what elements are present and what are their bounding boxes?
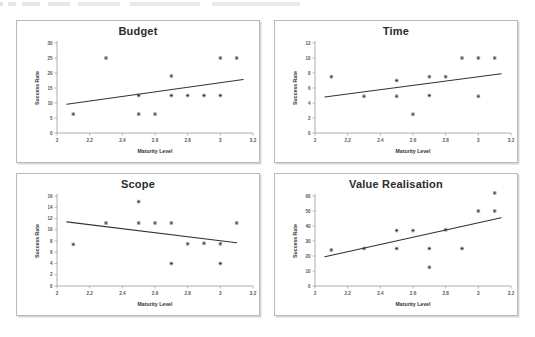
time-ytick-label: 6: [308, 86, 311, 91]
budget-ytick-label: 20: [47, 71, 53, 76]
scope-ytick-label: 4: [50, 261, 53, 266]
scope-ytick-label: 8: [50, 239, 53, 244]
scope-data-point: [186, 242, 190, 246]
scan-artifact-strip: [0, 2, 330, 6]
budget-data-point: [218, 56, 222, 60]
scope-xaxis-title: Maturity Level: [138, 301, 173, 307]
scope-data-point: [202, 241, 206, 245]
time-data-point: [493, 56, 497, 60]
budget-data-point: [186, 94, 190, 98]
time-ytick-label: 4: [308, 101, 311, 106]
time-data-point: [427, 94, 431, 98]
time-xtick-label: 2.6: [410, 138, 417, 143]
value-realisation-data-point: [395, 229, 399, 233]
time-data-point: [329, 75, 333, 79]
budget-data-point: [169, 94, 173, 98]
budget-data-point: [137, 112, 141, 116]
time-data-point: [395, 94, 399, 98]
time-xtick-label: 2.2: [344, 138, 351, 143]
value-realisation-ytick-label: 50: [305, 209, 311, 214]
value-realisation-data-point: [411, 229, 415, 233]
budget-data-point: [202, 94, 206, 98]
budget-ytick-label: 5: [50, 116, 53, 121]
value-realisation-data-point: [476, 209, 480, 213]
scope-xtick-label: 2.6: [152, 291, 159, 296]
scope-ytick-label: 12: [47, 216, 53, 221]
budget-axis-lines: [57, 41, 253, 133]
scope-ytick-label: 14: [47, 205, 53, 210]
time-data-point: [444, 75, 448, 79]
scope-ytick-label: 16: [47, 194, 53, 199]
scope-ytick-label: 2: [50, 272, 53, 277]
budget-xtick-label: 2.2: [86, 138, 93, 143]
scope-data-point: [169, 221, 173, 225]
scope-data-point: [235, 221, 239, 225]
scope-data-point: [153, 221, 157, 225]
chart-panel-value-realisation: Value Realisation 010203040506022.22.42.…: [274, 173, 518, 316]
budget-xtick-label: 2.6: [152, 138, 159, 143]
scope-xtick-label: 2: [56, 291, 59, 296]
time-ytick-label: 10: [305, 56, 311, 61]
time-ytick-label: 12: [305, 41, 311, 46]
budget-data-point: [137, 94, 141, 98]
time-data-point: [476, 94, 480, 98]
time-xtick-label: 3: [477, 138, 480, 143]
scope-xtick-label: 2.4: [119, 291, 126, 296]
scope-xtick-label: 2.2: [86, 291, 93, 296]
budget-yaxis-title: Success Rate: [34, 71, 40, 105]
value-realisation-data-point: [427, 247, 431, 251]
budget-data-point: [235, 56, 239, 60]
value-realisation-xtick-label: 2.8: [442, 291, 449, 296]
value-realisation-xtick-label: 2.4: [377, 291, 384, 296]
time-data-point: [395, 79, 399, 83]
value-realisation-data-point: [329, 248, 333, 252]
value-realisation-ytick-label: 40: [305, 224, 311, 229]
scope-data-point: [218, 242, 222, 246]
time-axis-lines: [315, 41, 511, 133]
scope-xtick-label: 3: [219, 291, 222, 296]
time-data-point: [427, 75, 431, 79]
value-realisation-xtick-label: 3: [477, 291, 480, 296]
time-ytick-label: 8: [308, 71, 311, 76]
scope-xtick-label: 2.8: [184, 291, 191, 296]
scope-data-point: [218, 262, 222, 266]
budget-trendline: [67, 80, 243, 105]
value-realisation-ytick-label: 20: [305, 254, 311, 259]
value-realisation-data-point: [362, 247, 366, 251]
budget-ytick-label: 25: [47, 56, 53, 61]
value-realisation-yaxis-title: Success Rate: [292, 224, 298, 258]
scope-data-point: [137, 221, 141, 225]
chart-grid: Budget 05101520253022.22.42.62.833.2Matu…: [16, 20, 518, 316]
value-realisation-ytick-label: 10: [305, 269, 311, 274]
budget-xtick-label: 2: [56, 138, 59, 143]
time-xtick-label: 2.4: [377, 138, 384, 143]
time-xaxis-title: Maturity Level: [396, 148, 431, 154]
chart-panel-budget: Budget 05101520253022.22.42.62.833.2Matu…: [16, 20, 260, 163]
value-realisation-xtick-label: 2.2: [344, 291, 351, 296]
value-realisation-data-point: [427, 265, 431, 269]
scope-xtick-label: 3.2: [250, 291, 257, 296]
budget-data-point: [169, 74, 173, 78]
scope-ytick-label: 10: [47, 227, 53, 232]
budget-xtick-label: 2.8: [184, 138, 191, 143]
scope-yaxis-title: Success Rate: [34, 224, 40, 258]
chart-panel-time: Time 02468101222.22.42.62.833.2Maturity …: [274, 20, 518, 163]
value-realisation-xtick-label: 2: [314, 291, 317, 296]
time-data-point: [411, 112, 415, 116]
plot-area-time: 02468101222.22.42.62.833.2Maturity Level…: [275, 21, 517, 162]
plot-area-value-realisation: 010203040506022.22.42.62.833.2Maturity L…: [275, 174, 517, 315]
time-ytick-label: 0: [308, 131, 311, 136]
plot-area-scope: 024681012141622.22.42.62.833.2Maturity L…: [17, 174, 259, 315]
time-data-point: [460, 56, 464, 60]
time-ytick-label: 2: [308, 116, 311, 121]
time-data-point: [362, 94, 366, 98]
value-realisation-data-point: [395, 247, 399, 251]
plot-area-budget: 05101520253022.22.42.62.833.2Maturity Le…: [17, 21, 259, 162]
time-data-point: [476, 56, 480, 60]
scope-ytick-label: 0: [50, 284, 53, 289]
chart-panel-scope: Scope 024681012141622.22.42.62.833.2Matu…: [16, 173, 260, 316]
scope-trendline: [67, 222, 237, 243]
time-xtick-label: 2: [314, 138, 317, 143]
value-realisation-data-point: [493, 191, 497, 195]
value-realisation-ytick-label: 0: [308, 284, 311, 289]
